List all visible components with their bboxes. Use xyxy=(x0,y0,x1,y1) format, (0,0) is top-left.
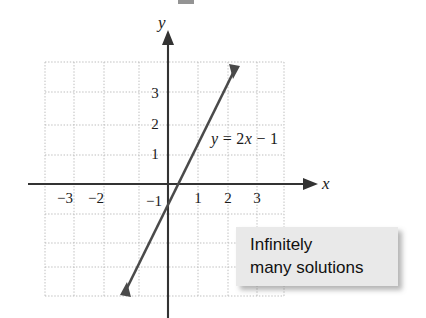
equation-slope-coef: 2 xyxy=(236,130,244,147)
y-tick-label-2: 2 xyxy=(148,117,162,132)
y-axis-arrowhead xyxy=(162,30,174,45)
equation-lhs: y xyxy=(211,130,218,147)
graph-figure: x y −3 −2 1 2 3 3 2 1 −1 y = 2x − 1 Infi… xyxy=(0,0,426,318)
x-axis-label: x xyxy=(322,175,330,192)
line-y-equals-2x-minus-1 xyxy=(127,73,233,288)
callout-infinitely-many-solutions: Infinitely many solutions xyxy=(236,227,398,286)
equation-annotation: y = 2x − 1 xyxy=(211,130,278,148)
x-tick-label-neg2: −2 xyxy=(86,191,106,206)
equation-equals: = xyxy=(223,130,232,147)
y-tick-label-1: 1 xyxy=(148,147,162,162)
equation-variable: x xyxy=(245,130,252,147)
x-tick-label-3: 3 xyxy=(249,191,265,206)
equation-minus: − xyxy=(256,130,265,147)
callout-line-2: many solutions xyxy=(250,257,398,280)
y-tick-label-3: 3 xyxy=(148,86,162,101)
y-tick-label-neg1: −1 xyxy=(140,194,162,209)
x-axis-arrowhead xyxy=(303,178,318,190)
x-tick-label-2: 2 xyxy=(220,191,236,206)
y-axis-label: y xyxy=(158,14,166,31)
x-tick-label-1: 1 xyxy=(190,191,206,206)
x-tick-label-neg3: −3 xyxy=(55,191,75,206)
callout-line-1: Infinitely xyxy=(250,234,398,257)
equation-intercept: 1 xyxy=(270,130,278,147)
